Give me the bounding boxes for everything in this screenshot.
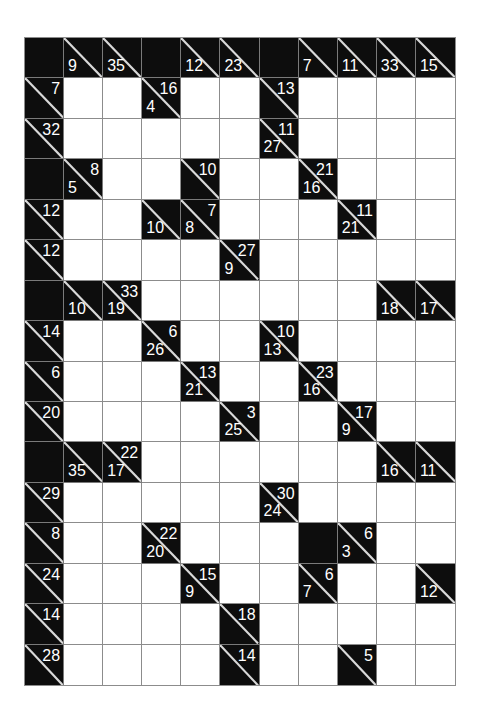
entry-cell[interactable] [64, 200, 103, 240]
entry-cell[interactable] [181, 442, 220, 482]
entry-cell[interactable] [142, 442, 181, 482]
entry-cell[interactable] [299, 78, 338, 118]
entry-cell[interactable] [181, 402, 220, 442]
entry-cell[interactable] [299, 321, 338, 361]
entry-cell[interactable] [103, 483, 142, 523]
entry-cell[interactable] [416, 321, 455, 361]
entry-cell[interactable] [220, 564, 259, 604]
entry-cell[interactable] [103, 523, 142, 563]
entry-cell[interactable] [181, 645, 220, 685]
entry-cell[interactable] [103, 362, 142, 402]
entry-cell[interactable] [181, 321, 220, 361]
entry-cell[interactable] [416, 604, 455, 644]
entry-cell[interactable] [260, 645, 299, 685]
entry-cell[interactable] [142, 119, 181, 159]
entry-cell[interactable] [299, 402, 338, 442]
entry-cell[interactable] [64, 564, 103, 604]
entry-cell[interactable] [377, 483, 416, 523]
entry-cell[interactable] [416, 362, 455, 402]
entry-cell[interactable] [260, 604, 299, 644]
entry-cell[interactable] [416, 240, 455, 280]
entry-cell[interactable] [260, 159, 299, 199]
entry-cell[interactable] [103, 321, 142, 361]
entry-cell[interactable] [142, 240, 181, 280]
entry-cell[interactable] [416, 159, 455, 199]
entry-cell[interactable] [260, 442, 299, 482]
entry-cell[interactable] [64, 321, 103, 361]
entry-cell[interactable] [338, 362, 377, 402]
entry-cell[interactable] [103, 604, 142, 644]
entry-cell[interactable] [64, 483, 103, 523]
entry-cell[interactable] [103, 402, 142, 442]
entry-cell[interactable] [377, 159, 416, 199]
entry-cell[interactable] [142, 362, 181, 402]
entry-cell[interactable] [64, 362, 103, 402]
entry-cell[interactable] [220, 483, 259, 523]
entry-cell[interactable] [377, 564, 416, 604]
entry-cell[interactable] [377, 321, 416, 361]
entry-cell[interactable] [142, 564, 181, 604]
entry-cell[interactable] [181, 281, 220, 321]
entry-cell[interactable] [377, 645, 416, 685]
entry-cell[interactable] [416, 483, 455, 523]
entry-cell[interactable] [220, 281, 259, 321]
entry-cell[interactable] [260, 564, 299, 604]
entry-cell[interactable] [338, 119, 377, 159]
entry-cell[interactable] [299, 200, 338, 240]
entry-cell[interactable] [377, 119, 416, 159]
entry-cell[interactable] [260, 200, 299, 240]
entry-cell[interactable] [299, 281, 338, 321]
entry-cell[interactable] [181, 523, 220, 563]
entry-cell[interactable] [64, 78, 103, 118]
entry-cell[interactable] [377, 362, 416, 402]
entry-cell[interactable] [377, 200, 416, 240]
entry-cell[interactable] [299, 645, 338, 685]
entry-cell[interactable] [338, 604, 377, 644]
entry-cell[interactable] [220, 159, 259, 199]
entry-cell[interactable] [181, 78, 220, 118]
entry-cell[interactable] [142, 281, 181, 321]
entry-cell[interactable] [260, 240, 299, 280]
entry-cell[interactable] [220, 200, 259, 240]
entry-cell[interactable] [299, 604, 338, 644]
entry-cell[interactable] [220, 523, 259, 563]
entry-cell[interactable] [220, 362, 259, 402]
entry-cell[interactable] [142, 402, 181, 442]
entry-cell[interactable] [416, 78, 455, 118]
entry-cell[interactable] [64, 523, 103, 563]
entry-cell[interactable] [260, 281, 299, 321]
entry-cell[interactable] [103, 645, 142, 685]
entry-cell[interactable] [142, 645, 181, 685]
entry-cell[interactable] [103, 78, 142, 118]
entry-cell[interactable] [181, 604, 220, 644]
entry-cell[interactable] [338, 281, 377, 321]
entry-cell[interactable] [220, 442, 259, 482]
entry-cell[interactable] [416, 523, 455, 563]
entry-cell[interactable] [142, 159, 181, 199]
entry-cell[interactable] [103, 564, 142, 604]
entry-cell[interactable] [64, 645, 103, 685]
entry-cell[interactable] [338, 442, 377, 482]
entry-cell[interactable] [64, 402, 103, 442]
entry-cell[interactable] [338, 78, 377, 118]
entry-cell[interactable] [299, 119, 338, 159]
entry-cell[interactable] [64, 604, 103, 644]
entry-cell[interactable] [181, 119, 220, 159]
entry-cell[interactable] [103, 240, 142, 280]
entry-cell[interactable] [64, 240, 103, 280]
entry-cell[interactable] [338, 321, 377, 361]
entry-cell[interactable] [181, 483, 220, 523]
entry-cell[interactable] [377, 402, 416, 442]
entry-cell[interactable] [260, 362, 299, 402]
entry-cell[interactable] [377, 604, 416, 644]
entry-cell[interactable] [142, 483, 181, 523]
entry-cell[interactable] [299, 240, 338, 280]
entry-cell[interactable] [103, 119, 142, 159]
entry-cell[interactable] [181, 240, 220, 280]
entry-cell[interactable] [220, 321, 259, 361]
entry-cell[interactable] [260, 402, 299, 442]
entry-cell[interactable] [299, 442, 338, 482]
entry-cell[interactable] [220, 78, 259, 118]
entry-cell[interactable] [416, 402, 455, 442]
entry-cell[interactable] [338, 159, 377, 199]
